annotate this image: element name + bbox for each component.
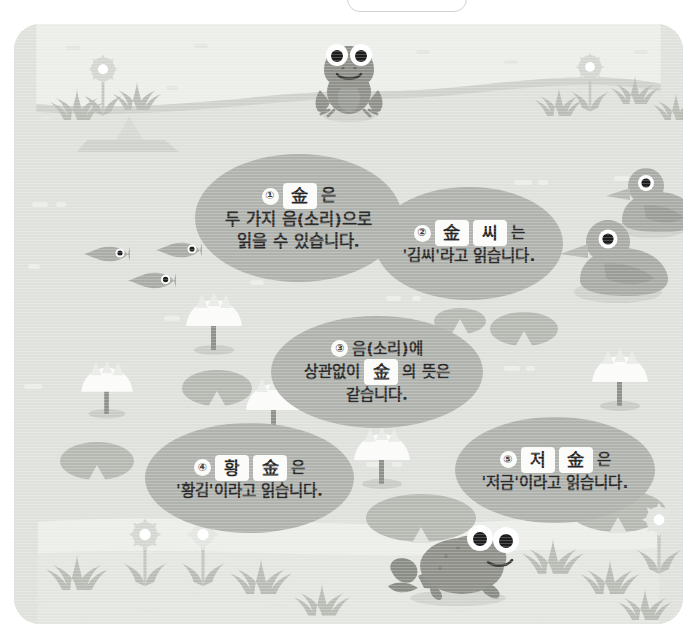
bubble-number-4: ④ — [194, 459, 211, 476]
fish-1 — [82, 244, 130, 264]
grass-tuft — [46, 540, 108, 590]
bubble-text: 음(소리)에 — [352, 339, 422, 359]
ground-speck — [194, 44, 208, 48]
bubble-number-2: ② — [414, 225, 431, 242]
bubble-text: 는 — [511, 223, 525, 243]
ground-speck — [166, 86, 178, 90]
water-dash — [56, 202, 66, 207]
water-dash — [250, 280, 264, 285]
bubble-5-line-1: ⑤ 저 金 은 — [500, 447, 611, 473]
hanja-chip: 金 — [283, 183, 317, 209]
speech-bubble-2[interactable]: ② 金 씨 는 '김씨'라고 읽습니다. — [375, 187, 563, 300]
bubble-3-line-1: ③ 음(소리)에 — [331, 339, 422, 359]
bubble-3-line-2: 상관없이 金 의 뜻은 — [304, 359, 449, 385]
hangul-chip: 씨 — [473, 220, 507, 246]
speech-bubble-5[interactable]: ⑤ 저 金 은 '저금'이라고 읽습니다. — [455, 417, 655, 523]
water-dash — [28, 264, 40, 269]
bubble-4-line-2: '황김'이라고 읽습니다. — [176, 481, 323, 501]
ground-speck — [40, 116, 52, 120]
bubble-text: 은 — [597, 450, 611, 470]
pond-illustration: ① 金 은 두 가지 음(소리)으로 읽을 수 있습니다. ② 金 씨 는 '김… — [14, 24, 683, 624]
fish-3 — [126, 270, 176, 291]
ground-speck — [634, 50, 648, 54]
water-dash — [538, 180, 548, 185]
bubble-2-line-1: ② 金 씨 는 — [414, 220, 525, 246]
daisy-flower — [114, 518, 176, 586]
hanja-chip: 金 — [253, 455, 287, 481]
bubble-text: 상관없이 — [304, 362, 360, 382]
bubble-text: 은 — [291, 458, 305, 478]
water-dash — [514, 180, 532, 185]
grass-tuft — [652, 82, 683, 120]
speech-bubble-4[interactable]: ④ 황 金 은 '황김'이라고 읽습니다. — [145, 423, 354, 533]
bubble-text: 은 — [321, 185, 336, 207]
bubble-number-5: ⑤ — [500, 451, 517, 468]
bubble-1-line-2: 두 가지 음(소리)으로 — [225, 209, 372, 231]
bubble-3-line-3: 같습니다. — [346, 385, 408, 405]
grass-tuft — [618, 576, 672, 620]
hanja-chip: 金 — [559, 447, 593, 473]
ground-speck — [80, 620, 94, 624]
ground-speck — [416, 50, 430, 54]
lily-pad — [60, 442, 134, 480]
ground-speck — [34, 598, 48, 602]
duck-front — [556, 218, 674, 304]
bubble-number-1: ① — [262, 188, 279, 205]
frog-top — [312, 40, 386, 122]
hanja-chip: 金 — [364, 359, 398, 385]
water-dash — [24, 384, 42, 389]
ground-speck — [326, 622, 339, 624]
hangul-chip: 황 — [215, 455, 249, 481]
water-dash — [526, 366, 535, 371]
ground-speck — [610, 110, 622, 114]
water-dash — [32, 202, 48, 207]
lotus-flower — [72, 358, 142, 420]
bubble-1-line-3: 읽을 수 있습니다. — [237, 231, 360, 253]
bubble-text: 의 뜻은 — [402, 362, 449, 382]
fish-2 — [154, 240, 202, 260]
ground-speck — [504, 60, 518, 64]
bubble-4-line-1: ④ 황 金 은 — [194, 455, 305, 481]
ground-speck — [190, 592, 202, 596]
ground-speck — [66, 46, 80, 50]
top-rounded-tab — [347, 0, 467, 12]
grass-tuft — [294, 570, 350, 616]
lotus-flower — [582, 346, 658, 412]
ground-speck — [142, 608, 154, 612]
daisy-flower — [566, 52, 614, 112]
bubble-5-line-2: '저금'이라고 읽습니다. — [482, 473, 629, 493]
lotus-flower — [176, 292, 252, 356]
ground-speck — [270, 604, 283, 608]
water-dash — [504, 366, 520, 371]
hangul-chip: 저 — [521, 447, 555, 473]
grass-tuft — [522, 524, 584, 574]
daisy-flower — [630, 502, 683, 574]
speech-bubble-1[interactable]: ① 金 은 두 가지 음(소리)으로 읽을 수 있습니다. — [195, 154, 402, 282]
grass-tuft — [230, 544, 292, 594]
speech-bubble-3[interactable]: ③ 음(소리)에 상관없이 金 의 뜻은 같습니다. — [271, 316, 483, 428]
bubble-1-line-1: ① 金 은 — [262, 183, 336, 209]
ground-speck — [454, 608, 467, 612]
frog-bottom — [384, 510, 524, 606]
water-dash — [412, 296, 421, 301]
illustration-page: ① 金 은 두 가지 음(소리)으로 읽을 수 있습니다. ② 金 씨 는 '김… — [0, 0, 697, 641]
ground-speck — [534, 620, 547, 624]
water-dash — [386, 296, 401, 301]
lily-pad — [490, 312, 558, 346]
bubble-number-3: ③ — [331, 340, 348, 357]
bubble-2-line-2: '김씨'라고 읽습니다. — [403, 246, 536, 266]
hanja-chip: 金 — [435, 220, 469, 246]
daisy-flower — [78, 54, 128, 116]
lotus-flower — [344, 424, 420, 490]
